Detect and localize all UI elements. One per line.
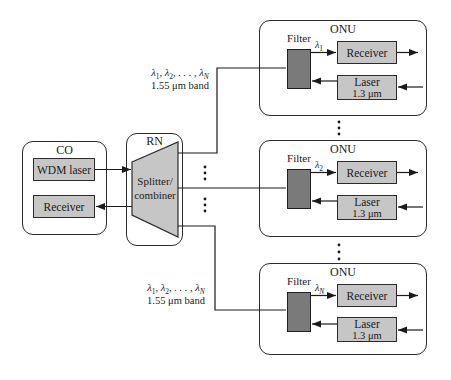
- co-title: CO: [22, 144, 107, 156]
- top-band-lambdas: λ1, λ2, . . . , λN: [142, 66, 218, 79]
- onu3-receiver-box: Receiver: [337, 284, 397, 307]
- rn-title: RN: [126, 135, 183, 147]
- rn-ellipsis-dots: [204, 166, 207, 213]
- onu1-filter-box: [287, 49, 311, 89]
- onu2-filter-label: Filter: [279, 153, 319, 164]
- bottom-band-label: λ1, λ2, . . . , λN 1.55 μm band: [138, 281, 214, 307]
- co-receiver-box: Receiver: [33, 195, 95, 218]
- onu1-laser-box: Laser 1.3 μm: [337, 75, 397, 100]
- wdm-laser-box: WDM laser: [33, 158, 95, 181]
- onu1-lambda-label: λ1: [315, 40, 323, 50]
- onu1-receiver-box: Receiver: [337, 41, 397, 64]
- onu2-laser-box: Laser 1.3 μm: [337, 195, 397, 220]
- co-receiver-label: Receiver: [44, 201, 85, 213]
- wdm-laser-label: WDM laser: [37, 164, 91, 176]
- onu2-receiver-box: Receiver: [337, 161, 397, 184]
- wdm-pon-diagram: CO WDM laser Receiver RN Splitter/ combi…: [0, 0, 451, 380]
- bottom-band-lambdas: λ1, λ2, . . . , λN: [138, 281, 214, 294]
- onu2-filter-box: [287, 169, 311, 209]
- onu3-filter-box: [287, 292, 311, 332]
- top-band-text: 1.55 μm band: [142, 79, 218, 92]
- splitter-combiner-label: Splitter/ combiner: [129, 175, 181, 202]
- bottom-band-text: 1.55 μm band: [138, 294, 214, 307]
- top-band-label: λ1, λ2, . . . , λN 1.55 μm band: [142, 66, 218, 92]
- onu2-lambda-label: λ2: [315, 160, 323, 170]
- onu3-laser-box: Laser 1.3 μm: [337, 317, 397, 342]
- onu1-filter-label: Filter: [279, 33, 319, 44]
- onu3-filter-label: Filter: [279, 276, 319, 287]
- onu3-lambda-label: λN: [315, 283, 324, 293]
